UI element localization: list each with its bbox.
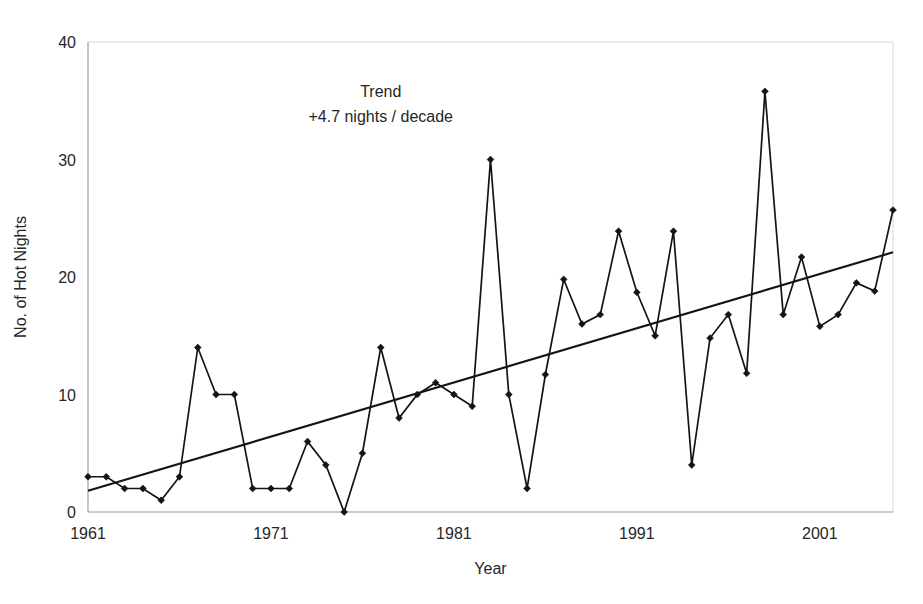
x-axis-tick-labels: 19611971198119912001 <box>70 525 838 542</box>
plot-frame <box>88 42 893 512</box>
trend-label-line2: +4.7 nights / decade <box>308 108 453 125</box>
data-point-marker <box>890 207 897 214</box>
chart-container: 010203040 19611971198119912001 No. of Ho… <box>0 0 923 604</box>
data-layer <box>85 88 897 515</box>
data-point-marker <box>505 391 512 398</box>
x-tick-label: 2001 <box>802 525 838 542</box>
x-tick-label: 1961 <box>70 525 106 542</box>
data-point-marker <box>85 473 92 480</box>
y-axis-tick-labels: 010203040 <box>58 34 76 521</box>
series-line-hot-nights <box>88 91 893 512</box>
hot-nights-line-chart: 010203040 19611971198119912001 No. of Ho… <box>0 0 923 604</box>
y-tick-label: 30 <box>58 152 76 169</box>
data-point-marker <box>487 156 494 163</box>
x-tick-label: 1971 <box>253 525 289 542</box>
data-point-marker <box>524 485 531 492</box>
data-point-marker <box>377 344 384 351</box>
y-tick-label: 0 <box>67 504 76 521</box>
data-point-marker <box>231 391 238 398</box>
data-point-marker <box>542 371 549 378</box>
data-point-marker <box>670 228 677 235</box>
data-point-marker <box>853 279 860 286</box>
data-point-marker <box>688 462 695 469</box>
data-point-marker <box>560 276 567 283</box>
y-tick-label: 20 <box>58 269 76 286</box>
x-tick-label: 1991 <box>619 525 655 542</box>
data-point-marker <box>652 332 659 339</box>
y-tick-label: 40 <box>58 34 76 51</box>
data-point-marker <box>359 450 366 457</box>
data-point-marker <box>615 228 622 235</box>
data-point-marker <box>762 88 769 95</box>
data-point-marker <box>268 485 275 492</box>
data-point-marker <box>743 370 750 377</box>
data-point-marker <box>798 254 805 261</box>
y-axis-title: No. of Hot Nights <box>12 216 29 338</box>
data-point-marker <box>597 311 604 318</box>
data-point-marker <box>194 344 201 351</box>
x-tick-label: 1981 <box>436 525 472 542</box>
data-point-marker <box>780 311 787 318</box>
data-point-marker <box>633 289 640 296</box>
data-point-marker <box>579 321 586 328</box>
y-tick-label: 10 <box>58 387 76 404</box>
data-point-marker <box>871 288 878 295</box>
trend-line <box>88 252 893 491</box>
data-point-marker <box>341 509 348 516</box>
data-point-marker <box>213 391 220 398</box>
trend-label-line1: Trend <box>360 83 401 100</box>
x-axis-title: Year <box>474 560 507 577</box>
series-markers <box>85 88 897 515</box>
data-point-marker <box>249 485 256 492</box>
data-point-marker <box>286 485 293 492</box>
